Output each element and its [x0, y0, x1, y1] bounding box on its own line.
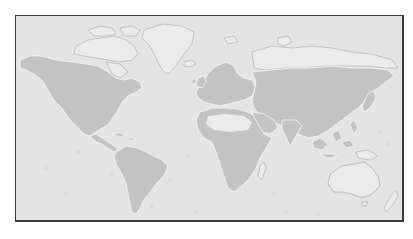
map-frame — [15, 15, 404, 222]
ireland — [192, 79, 196, 84]
world-map — [16, 16, 402, 220]
